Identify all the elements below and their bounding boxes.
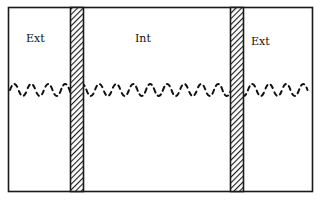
label-left-ext: Ext	[26, 32, 45, 45]
left-membrane	[71, 8, 84, 192]
label-right-ext: Ext	[251, 35, 270, 48]
membrane-diagram: Ext Int Ext	[0, 0, 321, 200]
right-membrane	[231, 8, 244, 192]
label-int: Int	[135, 32, 151, 45]
